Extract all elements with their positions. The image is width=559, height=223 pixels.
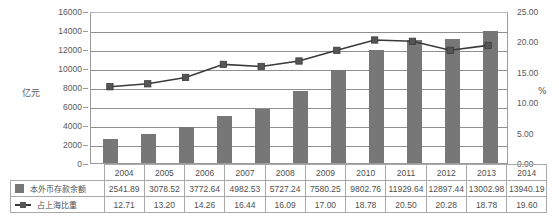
table-header-year: 2009 <box>305 165 345 181</box>
line-marker <box>145 81 151 87</box>
y-tick-mark-left <box>83 69 88 70</box>
y-tick-mark-left <box>83 107 88 108</box>
line-marker <box>296 58 302 64</box>
table-header-year: 2013 <box>466 165 506 181</box>
line-marker <box>182 74 188 80</box>
table-cell-value: 3772.64 <box>185 181 225 197</box>
y-tick-label-right: 20.00 <box>517 38 538 47</box>
y-tick-mark-left <box>83 88 88 89</box>
y-tick-mark-left <box>83 126 88 127</box>
legend-entry[interactable]: 占上海比重 <box>11 197 105 213</box>
legend-line-marker <box>20 202 26 208</box>
line-marker <box>485 42 491 48</box>
table-header-year: 2012 <box>426 165 466 181</box>
y-axis-left-label: 亿元 <box>22 86 40 99</box>
y-tick-label-right: 15.00 <box>517 69 538 78</box>
y-tick-label-left: 16000 <box>58 8 82 17</box>
table-cell-value: 18.78 <box>346 197 386 213</box>
y-tick-mark-left <box>83 31 88 32</box>
table-cell-value: 19.60 <box>507 197 547 213</box>
table-cell-value: 5727.24 <box>265 181 305 197</box>
table-header-year: 2004 <box>104 165 144 181</box>
y-tick-label-right: 5.00 <box>517 129 534 138</box>
y-axis-right: 0.005.0010.0015.0020.0025.00 <box>509 12 559 164</box>
table-row: 占上海比重12.7113.2014.2616.4416.0917.0018.78… <box>11 197 547 213</box>
table-cell-value: 7580.25 <box>305 181 345 197</box>
line-marker <box>258 63 264 69</box>
table-cell-value: 3078.52 <box>144 181 184 197</box>
table-cell-value: 11929.64 <box>386 181 426 197</box>
line-marker <box>409 38 415 44</box>
table-header-year: 2014 <box>507 165 547 181</box>
line-marker <box>447 47 453 53</box>
table-cell-value: 16.09 <box>265 197 305 213</box>
table-cell-value: 13940.19 <box>507 181 547 197</box>
line-marker <box>220 61 226 67</box>
table-corner-cell <box>11 165 105 181</box>
legend-bar-swatch-icon <box>15 184 24 193</box>
y-tick-label-left: 14000 <box>58 27 82 36</box>
table-cell-value: 2541.89 <box>104 181 144 197</box>
table-header-year: 2010 <box>346 165 386 181</box>
table-cell-value: 13.20 <box>144 197 184 213</box>
table-cell-value: 18.78 <box>466 197 506 213</box>
legend-entry[interactable]: 本外币存款余额 <box>11 181 105 197</box>
chart-canvas: 0200040006000800010000120001400016000 亿元… <box>0 0 559 170</box>
table-cell-value: 4982.53 <box>225 181 265 197</box>
y-tick-mark-left <box>83 50 88 51</box>
y-tick-label-left: 10000 <box>58 65 82 74</box>
y-tick-mark-left <box>83 12 88 13</box>
table-header-year: 2008 <box>265 165 305 181</box>
plot-area <box>90 12 508 164</box>
line-series <box>91 13 507 163</box>
table-header-year: 2007 <box>225 165 265 181</box>
y-tick-label-left: 2000 <box>63 141 82 150</box>
y-tick-label-left: 8000 <box>63 84 82 93</box>
y-tick-label-left: 4000 <box>63 122 82 131</box>
table-header-year: 2005 <box>144 165 184 181</box>
y-tick-mark-left <box>83 145 88 146</box>
table-cell-value: 14.26 <box>185 197 225 213</box>
legend-line-swatch-icon <box>15 200 31 209</box>
legend-label: 占上海比重 <box>37 199 77 210</box>
table-cell-value: 12897.44 <box>426 181 466 197</box>
table-cell-value: 9802.76 <box>346 181 386 197</box>
data-table: 2004200520062007200820092010201120122013… <box>10 164 547 213</box>
table-cell-value: 17.00 <box>305 197 345 213</box>
table-cell-value: 20.28 <box>426 197 466 213</box>
line-marker <box>371 37 377 43</box>
line-marker <box>107 84 113 90</box>
y-tick-label-right: 10.00 <box>517 99 538 108</box>
y-tick-label-left: 6000 <box>63 103 82 112</box>
table-row: 本外币存款余额2541.893078.523772.644982.535727.… <box>11 181 547 197</box>
table-cell-value: 13002.98 <box>466 181 506 197</box>
y-axis-left: 0200040006000800010000120001400016000 <box>0 12 88 164</box>
table-cell-value: 16.44 <box>225 197 265 213</box>
y-tick-label-right: 25.00 <box>517 8 538 17</box>
chart-screenshot: 0200040006000800010000120001400016000 亿元… <box>0 0 559 223</box>
y-tick-label-left: 12000 <box>58 46 82 55</box>
table-row-years: 2004200520062007200820092010201120122013… <box>11 165 547 181</box>
line-marker <box>334 47 340 53</box>
table-cell-value: 12.71 <box>104 197 144 213</box>
y-axis-right-label: % <box>538 86 547 96</box>
table-header-year: 2006 <box>185 165 225 181</box>
table-cell-value: 20.50 <box>386 197 426 213</box>
table-header-year: 2011 <box>386 165 426 181</box>
legend-label: 本外币存款余额 <box>30 183 86 194</box>
